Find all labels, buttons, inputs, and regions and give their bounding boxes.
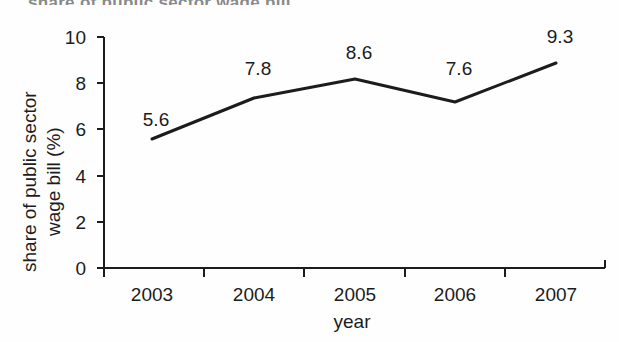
chart-figure: share of public sector wage bill 10 [0,0,619,342]
x-tick-label-2004: 2004 [209,285,299,304]
data-label-2004: 7.8 [231,59,285,78]
y-axis-title-line1: share of public sector [18,91,42,272]
x-axis-title: year [272,312,432,332]
y-tick-label-8: 8 [52,74,86,93]
data-series-line [152,63,556,139]
data-label-2007: 9.3 [533,27,587,46]
y-axis-ticks [97,37,104,268]
x-tick-label-2003: 2003 [107,285,197,304]
x-tick-label-2005: 2005 [310,285,400,304]
x-tick-label-2007: 2007 [511,285,601,304]
y-axis-title-line2: wage bill (%) [42,91,66,272]
data-label-2005: 8.6 [332,43,386,62]
data-label-2003: 5.6 [129,110,183,129]
y-tick-label-10: 10 [52,28,86,47]
x-tick-label-2006: 2006 [410,285,500,304]
data-label-2006: 7.6 [432,59,486,78]
y-axis-title: share of public sector wage bill (%) [18,91,66,272]
